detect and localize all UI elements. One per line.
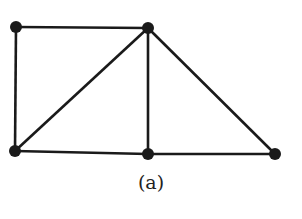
- edge-B-E: [148, 28, 275, 154]
- figure-caption: (a): [0, 171, 302, 193]
- edge-A-C: [15, 27, 16, 151]
- edge-A-B: [16, 27, 148, 28]
- edge-C-D: [15, 151, 148, 154]
- node-D: [142, 148, 154, 160]
- node-E: [269, 148, 281, 160]
- node-C: [9, 145, 21, 157]
- node-A: [10, 21, 22, 33]
- node-B: [142, 22, 154, 34]
- edge-B-C: [15, 28, 148, 151]
